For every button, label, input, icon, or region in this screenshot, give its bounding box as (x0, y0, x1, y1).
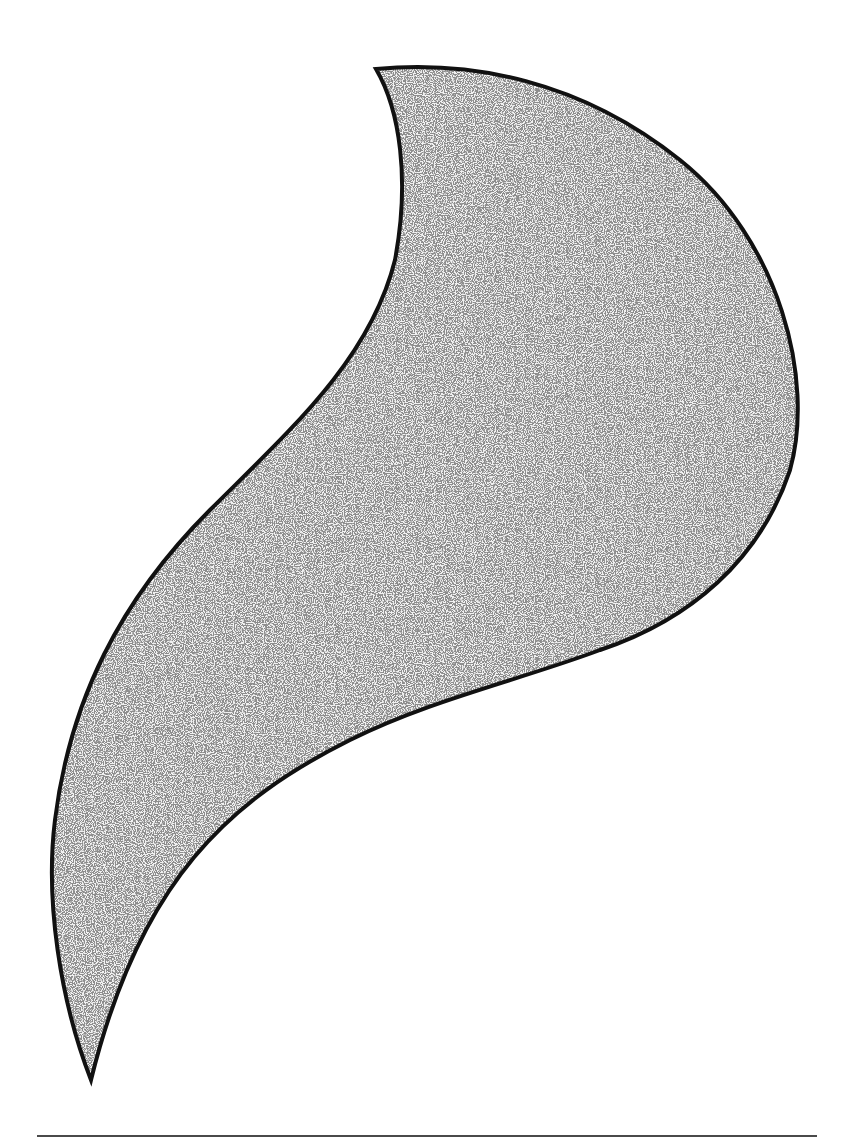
horizontal-rule (37, 1135, 817, 1137)
stipple-texture (0, 0, 849, 1148)
stippled-s-shape-figure (0, 0, 849, 1148)
